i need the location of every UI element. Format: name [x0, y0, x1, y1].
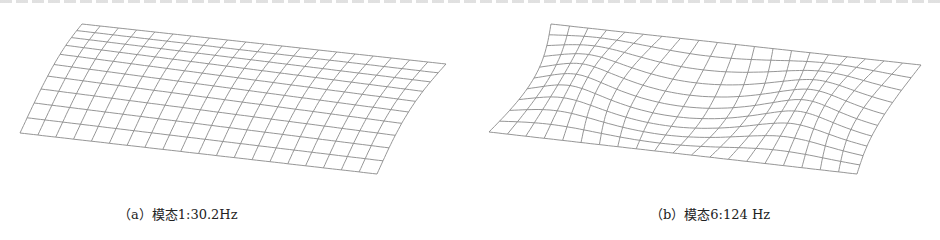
mesh-line — [489, 24, 551, 132]
mesh-line — [91, 32, 154, 141]
caption-mode-1: （a）模态1:30.2Hz — [118, 204, 238, 223]
mesh-line — [20, 24, 82, 133]
mesh-line — [163, 40, 228, 149]
mesh-line — [38, 26, 100, 135]
mesh-line — [519, 97, 867, 146]
mesh-line — [500, 121, 860, 165]
mesh-line — [549, 35, 911, 78]
mesh-line — [145, 38, 210, 147]
mesh-line — [74, 30, 137, 139]
mesh-line — [77, 31, 439, 73]
mesh-line — [56, 28, 119, 137]
mesh-line — [839, 63, 903, 172]
mesh-line — [54, 65, 409, 113]
mesh-line — [181, 42, 246, 151]
mesh-line — [747, 53, 810, 162]
mesh-line — [599, 36, 662, 144]
mesh-line — [691, 47, 754, 156]
mode-shape-mesh-a — [20, 24, 446, 174]
mesh-line — [48, 76, 402, 123]
mesh-line — [710, 49, 773, 158]
mesh-line — [82, 24, 446, 64]
mode-shape-mesh-b — [489, 24, 921, 174]
mesh-line — [581, 34, 644, 142]
mode-shape-figures — [0, 0, 940, 200]
mesh-line — [802, 59, 866, 168]
mesh-line — [71, 38, 430, 82]
mesh-line — [544, 54, 893, 103]
caption-mode-6: （b）模态6:124 Hz — [650, 204, 770, 223]
mesh-line — [510, 110, 863, 156]
mesh-line — [489, 132, 857, 174]
